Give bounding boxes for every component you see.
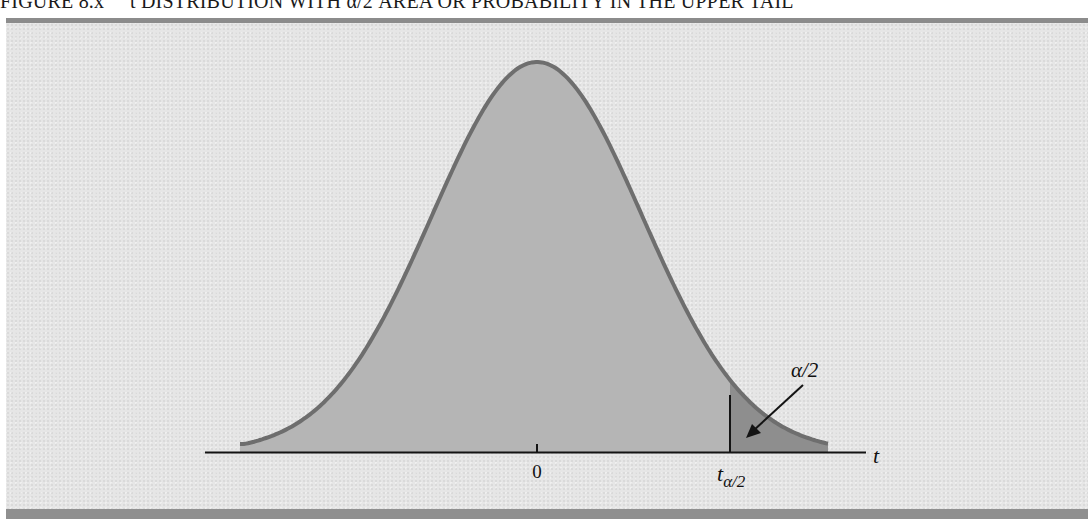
alpha-half-label: α/2 [791,358,819,382]
zero-label: 0 [532,461,542,482]
t-axis-label: t [873,443,880,468]
t-critical-label: tα/2 [717,461,746,491]
t-critical-subscript: α/2 [723,472,746,491]
t-distribution-chart: 0 t tα/2 α/2 [0,0,1088,519]
